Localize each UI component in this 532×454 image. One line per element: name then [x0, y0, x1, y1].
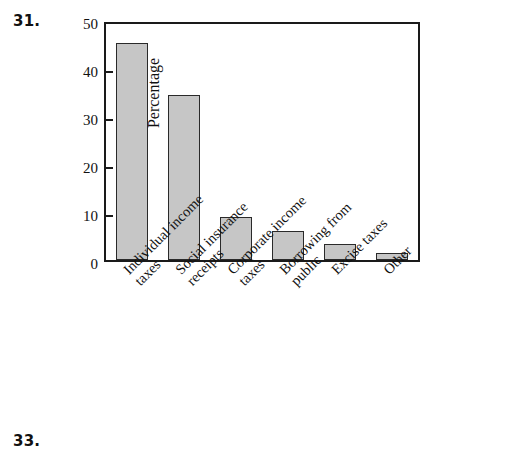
bar-chart: Percentage 0 10 20 30 40	[0, 0, 532, 400]
y-tick-label-10: 10	[83, 208, 98, 225]
y-tick-label-0: 0	[91, 256, 99, 273]
plot-area: Percentage 0 10 20 30 40	[104, 22, 420, 262]
bar-2	[220, 217, 252, 260]
bar-0	[116, 43, 148, 260]
bar-series	[106, 24, 418, 260]
bar-5	[376, 253, 408, 260]
y-tick-label-50: 50	[83, 16, 98, 33]
bar-3	[272, 231, 304, 260]
figure-number-33: 33.	[13, 432, 40, 450]
y-tick-label-40: 40	[83, 64, 98, 81]
bar-1	[168, 95, 200, 260]
y-tick-label-30: 30	[83, 112, 98, 129]
bar-4	[324, 244, 356, 260]
y-tick-label-20: 20	[83, 160, 98, 177]
